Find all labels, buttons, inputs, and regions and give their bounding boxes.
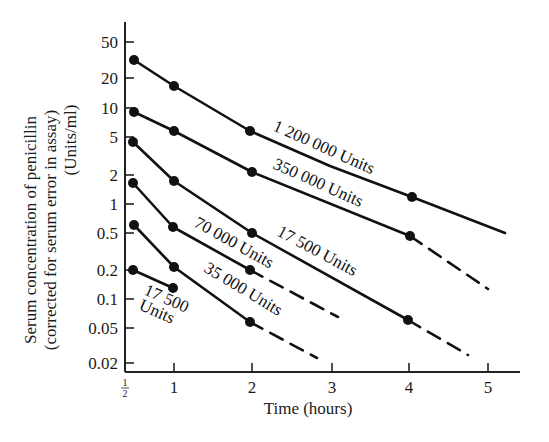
x-tick-5: 5 bbox=[484, 378, 493, 397]
x-ticks bbox=[174, 363, 488, 372]
series-70000-line bbox=[133, 183, 250, 270]
x-tick-half-num: 1 bbox=[123, 377, 128, 388]
y-tick-20: 20 bbox=[101, 69, 118, 88]
y-tick-1: 1 bbox=[110, 195, 119, 214]
y-tick-labels: 50 20 10 5 2 1 0.5 0.2 0.1 0.05 0.02 bbox=[88, 33, 118, 373]
penicillin-chart: 50 20 10 5 2 1 0.5 0.2 0.1 0.05 0.02 1 2… bbox=[0, 0, 549, 442]
y-tick-2: 2 bbox=[110, 166, 119, 185]
series-350000-extension bbox=[410, 236, 488, 289]
x-tick-4: 4 bbox=[405, 378, 414, 397]
y-tick-10: 10 bbox=[101, 99, 118, 118]
y-tick-0.02: 0.02 bbox=[88, 354, 118, 373]
y-ticks bbox=[125, 42, 134, 363]
x-tick-3: 3 bbox=[328, 378, 337, 397]
x-tick-half-den: 2 bbox=[123, 388, 128, 399]
x-tick-2: 2 bbox=[248, 378, 257, 397]
x-tick-labels: 1 2 1 2 3 4 5 bbox=[121, 377, 492, 399]
y-tick-5: 5 bbox=[110, 128, 119, 147]
y-axis-title: Serum concentration of penicillin (corre… bbox=[21, 105, 80, 351]
x-axis-title: Time (hours) bbox=[264, 399, 353, 418]
label-17500-upper: 17 500 Units bbox=[274, 222, 360, 280]
x-tick-1: 1 bbox=[170, 378, 179, 397]
y-tick-0.2: 0.2 bbox=[97, 261, 118, 280]
y-tick-0.05: 0.05 bbox=[88, 319, 118, 338]
y-tick-50: 50 bbox=[101, 33, 118, 52]
y-tick-0.1: 0.1 bbox=[97, 290, 118, 309]
y-tick-0.5: 0.5 bbox=[97, 224, 118, 243]
y-axis-title-line2: (corrected for serum error in assay) bbox=[41, 110, 60, 350]
data-markers bbox=[128, 55, 417, 327]
series-35000-extension bbox=[250, 322, 317, 358]
y-axis-title-line3: (Units/ml) bbox=[61, 105, 80, 176]
series-17500-upper-extension bbox=[408, 320, 468, 355]
y-axis-title-line1: Serum concentration of penicillin bbox=[21, 115, 40, 344]
